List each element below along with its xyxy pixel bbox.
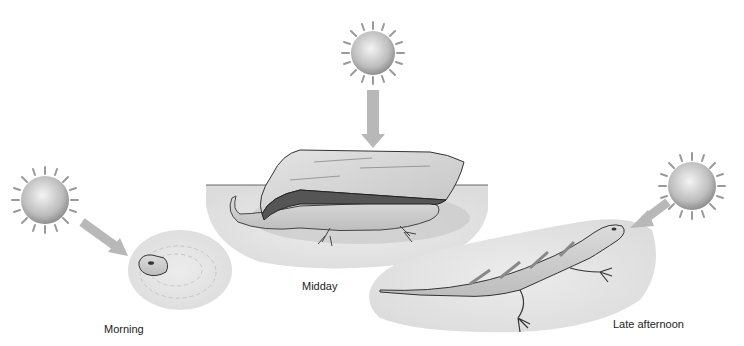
midday-panel: [206, 22, 488, 269]
diagram-canvas: [0, 0, 744, 346]
morning-panel: [12, 167, 232, 310]
morning-sun-icon: [12, 167, 78, 233]
midday-label: Midday: [302, 280, 337, 292]
morning-label: Morning: [104, 323, 144, 335]
morning-sunlight-arrow-icon: [82, 222, 128, 256]
midday-sun-icon: [342, 22, 404, 84]
midday-sunlight-arrow-icon: [361, 90, 385, 148]
late-afternoon-sunlight-arrow-icon: [630, 202, 668, 228]
late-afternoon-label: Late afternoon: [613, 318, 684, 330]
morning-lizard-head: [139, 255, 168, 276]
late-afternoon-sun-icon: [659, 153, 725, 219]
